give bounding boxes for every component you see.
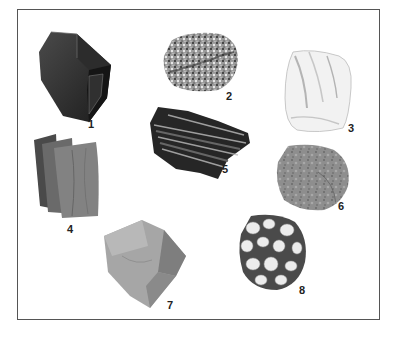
specimen-8-number: 8: [299, 285, 305, 296]
specimen-6-number: 6: [338, 201, 344, 212]
specimen-5-image: [148, 103, 253, 183]
specimen-1-image: [37, 30, 113, 122]
specimen-2-number: 2: [226, 91, 232, 102]
specimen-5-number: 5: [222, 164, 228, 175]
specimen-3-image: [283, 48, 353, 133]
specimen-1-number: 1: [88, 119, 94, 130]
specimen-4-number: 4: [67, 224, 73, 235]
specimen-7-image: [102, 216, 188, 311]
specimen-2-image: [162, 30, 240, 92]
specimen-8-image: [237, 212, 309, 292]
specimen-3-number: 3: [348, 123, 354, 134]
specimen-4-image: [32, 130, 102, 220]
specimen-7-number: 7: [167, 300, 173, 311]
